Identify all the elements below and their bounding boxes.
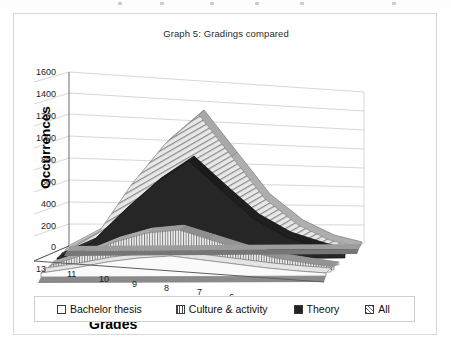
legend-item-theory[interactable]: Theory (294, 303, 340, 315)
y-tick-label: 1600 (22, 68, 56, 77)
legend-item-all[interactable]: All (365, 303, 390, 315)
legend-label: All (378, 303, 390, 315)
chart-legend: Bachelor thesis Culture & activity Theor… (34, 296, 415, 322)
legend-label: Theory (307, 303, 340, 315)
white-square-icon (57, 305, 66, 314)
x-tick-label: 9 (132, 280, 137, 289)
y-tick-label: 0 (22, 243, 56, 252)
x-tick-label: 10 (99, 275, 109, 284)
scan-artifact-strip (0, 0, 451, 9)
chart-title: Graph 5: Gradings compared (14, 28, 438, 39)
x-tick-label: 11 (67, 270, 76, 279)
x-tick-label: 8 (164, 284, 169, 293)
diagonal-hatch-square-icon (365, 305, 374, 314)
x-tick-label: 13 (36, 265, 46, 274)
vertical-hatch-square-icon (176, 305, 185, 314)
black-square-icon (294, 305, 303, 314)
legend-label: Bachelor thesis (70, 303, 142, 315)
legend-item-bachelor-thesis[interactable]: Bachelor thesis (57, 303, 142, 315)
chart-container: Graph 5: Gradings compared (13, 13, 437, 335)
legend-item-culture-activity[interactable]: Culture & activity (176, 303, 268, 315)
chart-3d-scene (14, 44, 438, 289)
y-tick-label: 200 (22, 222, 56, 231)
plot-area: 1600 1400 1200 1000 800 600 400 200 0 13… (14, 44, 438, 289)
y-axis-title: Occurrences (38, 92, 53, 204)
legend-label: Culture & activity (189, 303, 268, 315)
